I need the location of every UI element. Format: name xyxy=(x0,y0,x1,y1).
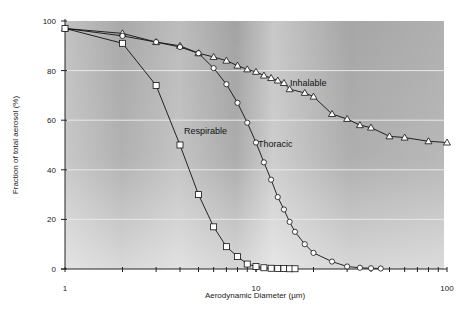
circle-marker xyxy=(345,264,350,269)
circle-marker xyxy=(224,82,229,87)
square-marker xyxy=(244,261,250,267)
square-marker xyxy=(119,40,125,46)
circle-marker xyxy=(154,39,159,44)
square-marker xyxy=(196,192,202,198)
circle-marker xyxy=(269,177,274,182)
square-marker xyxy=(211,224,217,230)
x-tick-label: 1 xyxy=(63,284,68,293)
y-tick-label: 40 xyxy=(47,166,56,175)
chart: 020406080100110100 InhalableThoracicResp… xyxy=(0,0,469,317)
y-axis-title: Fraction of total aerosol (%) xyxy=(11,96,20,195)
circle-marker xyxy=(329,259,334,264)
circle-marker xyxy=(287,219,292,224)
square-marker xyxy=(292,266,298,272)
square-marker xyxy=(177,142,183,148)
y-tick-label: 60 xyxy=(47,116,56,125)
circle-marker xyxy=(311,250,316,255)
circle-marker xyxy=(211,66,216,71)
circle-marker xyxy=(302,242,307,247)
circle-marker xyxy=(357,265,362,270)
circle-marker xyxy=(368,266,373,271)
y-tick-label: 20 xyxy=(47,215,56,224)
square-marker xyxy=(223,244,229,250)
y-tick-label: 80 xyxy=(47,67,56,76)
circle-marker xyxy=(235,100,240,105)
y-tick-label: 0 xyxy=(52,265,57,274)
x-tick-label: 100 xyxy=(440,284,454,293)
x-axis-title: Aerodynamic Diameter (µm) xyxy=(205,291,306,300)
square-marker xyxy=(275,266,281,272)
square-marker xyxy=(234,254,240,260)
circle-marker xyxy=(378,266,383,271)
series-label-inhalable: Inhalable xyxy=(290,78,327,88)
circle-marker xyxy=(120,33,125,38)
square-marker xyxy=(261,265,267,271)
circle-marker xyxy=(292,229,297,234)
y-tick-label: 100 xyxy=(43,17,57,26)
circle-marker xyxy=(281,207,286,212)
square-marker xyxy=(153,82,159,88)
square-marker xyxy=(268,265,274,271)
circle-marker xyxy=(196,51,201,56)
circle-marker xyxy=(245,120,250,125)
series-label-respirable: Respirable xyxy=(184,126,227,136)
square-marker xyxy=(281,266,287,272)
circle-marker xyxy=(177,44,182,49)
square-marker xyxy=(253,264,259,270)
square-marker xyxy=(62,25,68,31)
series-label-thoracic: Thoracic xyxy=(258,139,293,149)
circle-marker xyxy=(261,160,266,165)
circle-marker xyxy=(275,194,280,199)
